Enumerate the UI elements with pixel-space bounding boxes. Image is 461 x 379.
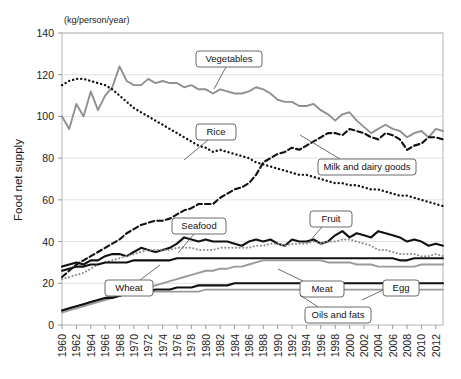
callout-label-seafood: Seafood	[181, 220, 216, 231]
callout-label-wheat: Wheat	[115, 282, 143, 293]
y-tick-label: 140	[36, 27, 54, 39]
x-tick-label: 1962	[70, 334, 82, 358]
annotation-wheat[interactable]: Wheat	[105, 265, 160, 296]
annotation-rice[interactable]: Rice	[184, 124, 236, 160]
x-tick-label: 1972	[142, 334, 154, 358]
x-tick-label: 2012	[430, 334, 442, 358]
chart-container: 020406080100120140 196019621964196619681…	[0, 0, 461, 379]
y-tick-label: 0	[48, 319, 54, 331]
callout-label-vegetables: Vegetables	[205, 53, 252, 64]
x-tick-label: 1964	[85, 334, 97, 358]
x-tick-label: 1990	[272, 334, 284, 358]
x-tick-label: 2008	[401, 334, 413, 358]
x-tick-label: 2000	[344, 334, 356, 358]
x-tick-label: 1992	[286, 334, 298, 358]
x-tick-label: 1996	[315, 334, 327, 358]
x-tick-label: 2006	[387, 334, 399, 358]
annotation-fruit[interactable]: Fruit	[308, 211, 352, 243]
x-tick-label: 1970	[128, 334, 140, 358]
x-tick-label: 1984	[229, 334, 241, 358]
leader-line-rice	[184, 140, 208, 160]
x-tick-label: 1988	[257, 334, 269, 358]
callout-label-fruit: Fruit	[322, 213, 341, 224]
y-tick-label: 20	[42, 277, 54, 289]
x-tick-label: 1998	[329, 334, 341, 358]
x-tick-label: 2002	[358, 334, 370, 358]
x-tick-label: 2010	[415, 334, 427, 358]
series-layer	[62, 66, 443, 312]
x-axis-ticks: 1960196219641966196819701972197419761978…	[56, 325, 442, 357]
series-line-wheat	[62, 258, 443, 271]
x-tick-label: 2004	[372, 334, 384, 358]
y-axis-ticks: 020406080100120140	[36, 27, 62, 331]
leader-line-egg	[362, 290, 383, 300]
y-tick-label: 40	[42, 236, 54, 248]
x-tick-label: 1986	[243, 334, 255, 358]
leader-line-wheat	[140, 265, 160, 280]
x-tick-label: 1976	[171, 334, 183, 358]
x-tick-label: 1980	[200, 334, 212, 358]
x-tick-label: 1982	[214, 334, 226, 358]
x-tick-label: 1974	[157, 334, 169, 358]
callout-label-meat: Meat	[311, 283, 332, 294]
annotation-milk-and-dairy-goods[interactable]: Milk and dairy goods	[300, 135, 416, 175]
food-net-supply-line-chart: 020406080100120140 196019621964196619681…	[0, 0, 461, 379]
x-tick-label: 1960	[56, 334, 68, 358]
y-tick-label: 60	[42, 194, 54, 206]
callout-label-milk-and-dairy-goods: Milk and dairy goods	[323, 161, 410, 172]
leader-line-vegetables	[214, 67, 226, 89]
x-tick-label: 1966	[99, 334, 111, 358]
series-line-seafood	[62, 231, 443, 266]
annotation-oils-and-fats[interactable]: Oils and fats	[300, 295, 371, 323]
annotation-vegetables[interactable]: Vegetables	[196, 51, 262, 89]
callout-label-egg: Egg	[393, 282, 410, 293]
leader-line-meat	[278, 269, 303, 281]
x-tick-label: 1978	[185, 334, 197, 358]
unit-label: (kg/person/year)	[64, 15, 130, 25]
y-tick-label: 80	[42, 152, 54, 164]
x-tick-label: 1994	[300, 334, 312, 358]
x-tick-label: 1968	[114, 334, 126, 358]
series-line-vegetables	[62, 66, 443, 137]
callout-label-oils-and-fats: Oils and fats	[312, 309, 365, 320]
y-tick-label: 120	[36, 69, 54, 81]
y-axis-title: Food net supply	[12, 139, 24, 221]
plot-grid	[62, 33, 443, 283]
callout-label-rice: Rice	[206, 126, 225, 137]
annotation-layer: VegetablesRiceMilk and dairy goodsSeafoo…	[105, 51, 419, 323]
series-line-rice	[62, 79, 443, 206]
y-tick-label: 100	[36, 110, 54, 122]
